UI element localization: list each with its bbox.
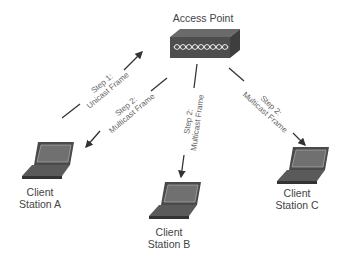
client-c-line1: Client [267,187,327,199]
client-a-line2: Station A [10,198,70,210]
laptop-icon-c [277,147,329,184]
client-b-line2: Station B [139,238,199,250]
diagram-canvas: Access Point Step 1: Unicast Frame Step … [0,0,344,259]
client-a-line1: Client [10,186,70,198]
client-c-line2: Station C [267,199,327,211]
access-point-label: Access Point [168,12,238,24]
client-label-c: Client Station C [267,187,327,211]
client-label-a: Client Station A [10,186,70,210]
access-point-label-text: Access Point [173,12,234,24]
client-label-b: Client Station B [139,226,199,250]
laptop-icon-a [22,142,74,179]
client-b-line1: Client [139,226,199,238]
laptop-icon-b [149,182,201,219]
access-point-icon [170,29,240,58]
